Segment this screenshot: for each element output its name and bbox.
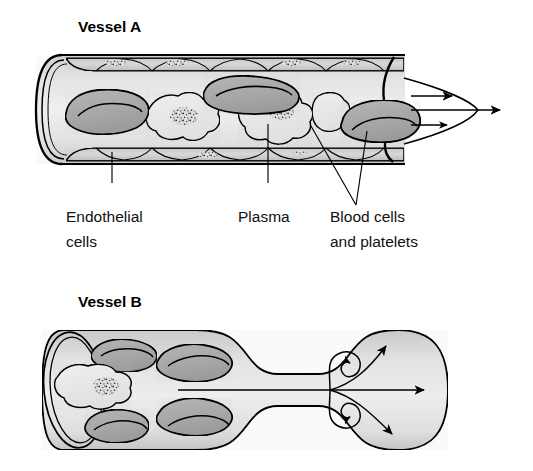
vessel-b-title: Vessel B bbox=[78, 293, 142, 310]
endothelial-nucleus bbox=[282, 59, 302, 66]
endothelial-nucleus bbox=[343, 59, 361, 65]
diagram-root: Vessel A bbox=[0, 0, 533, 471]
vessel-a-endothelium-bottom bbox=[66, 148, 404, 161]
endothelial-nucleus bbox=[166, 59, 186, 66]
endothelial-nucleus bbox=[293, 150, 307, 155]
red-blood-cell bbox=[156, 398, 232, 436]
vessel-flow-figure: Vessel A bbox=[0, 0, 533, 471]
endothelial-nucleus bbox=[198, 152, 218, 159]
label-blood-cells-line2: and platelets bbox=[330, 233, 418, 250]
label-endothelial-cells-line2: cells bbox=[66, 233, 97, 250]
endothelial-nucleus bbox=[105, 59, 127, 66]
vessel-a-endothelium-top bbox=[66, 58, 404, 71]
red-blood-cell bbox=[85, 410, 149, 443]
label-plasma: Plasma bbox=[238, 208, 290, 225]
red-blood-cell bbox=[341, 100, 420, 142]
red-blood-cell bbox=[66, 90, 149, 135]
red-blood-cell bbox=[156, 344, 232, 382]
white-blood-cell-nucleus bbox=[170, 107, 198, 125]
white-blood-cell-nucleus bbox=[93, 377, 119, 395]
label-endothelial-cells-line1: Endothelial bbox=[66, 208, 143, 225]
label-blood-cells-line1: Blood cells bbox=[330, 208, 405, 225]
vessel-a-title: Vessel A bbox=[78, 18, 141, 35]
